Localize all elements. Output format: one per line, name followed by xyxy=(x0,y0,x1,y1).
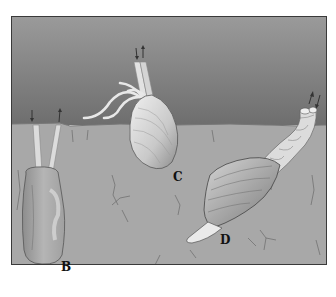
label-d: D xyxy=(220,234,230,246)
label-c: C xyxy=(173,171,183,183)
label-b: B xyxy=(61,261,71,273)
bivalve-burrowing-illustration xyxy=(0,0,336,297)
